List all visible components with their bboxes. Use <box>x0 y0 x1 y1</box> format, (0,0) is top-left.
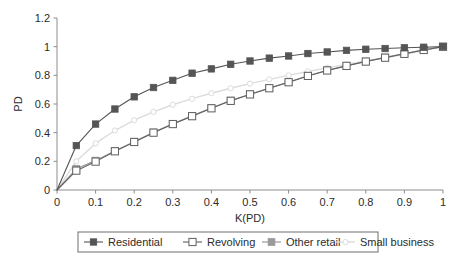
series-marker <box>112 128 117 133</box>
series-marker <box>304 72 311 79</box>
series-line <box>57 47 443 190</box>
series-marker <box>208 105 215 112</box>
series-marker <box>285 53 291 59</box>
legend-marker-swatch <box>268 239 275 246</box>
series-marker <box>150 84 156 90</box>
series-marker <box>228 86 233 91</box>
x-tick-label: 0.1 <box>88 196 103 208</box>
series-marker <box>73 142 79 148</box>
series-marker <box>189 70 195 76</box>
series-marker <box>189 113 196 120</box>
series-marker <box>132 118 137 123</box>
series-marker <box>401 45 407 51</box>
series-marker <box>324 67 331 74</box>
y-axis-ticks: 00.20.40.60.811.2 <box>35 12 57 196</box>
series-revolving <box>57 43 447 190</box>
x-tick-label: 0.9 <box>397 196 412 208</box>
series-marker <box>170 77 176 83</box>
series-line <box>57 47 443 190</box>
x-tick-label: 0.2 <box>127 196 142 208</box>
legend-item-label: Residential <box>108 236 162 248</box>
legend-marker-swatch <box>189 238 196 245</box>
series-marker <box>169 120 176 127</box>
axes-group <box>57 18 443 190</box>
series-marker <box>151 109 156 114</box>
series-marker <box>382 54 389 61</box>
series-marker <box>247 58 253 64</box>
series-line <box>57 47 443 190</box>
y-axis-title: PD <box>12 96 24 111</box>
y-tick-label: 0 <box>44 184 50 196</box>
series-other-retail <box>57 43 446 190</box>
series-marker <box>208 66 214 72</box>
x-tick-label: 0.7 <box>320 196 335 208</box>
chart-figure: 00.20.40.60.811.200.10.20.30.40.50.60.70… <box>0 0 456 265</box>
series-marker <box>440 43 446 49</box>
series-marker <box>362 58 369 65</box>
series-marker <box>286 73 291 78</box>
series-marker <box>246 91 253 98</box>
series-marker <box>382 45 388 51</box>
series-marker <box>363 46 369 52</box>
legend-marker-swatch <box>90 239 96 245</box>
y-tick-label: 0.4 <box>35 127 50 139</box>
legend-item-label: Other retail <box>286 236 340 248</box>
series-marker <box>92 121 98 127</box>
x-tick-label: 0.3 <box>165 196 180 208</box>
x-tick-label: 0 <box>54 196 60 208</box>
series-marker <box>285 79 292 86</box>
series-marker <box>131 138 138 145</box>
series-marker <box>73 167 80 174</box>
x-tick-label: 0.6 <box>281 196 296 208</box>
series-residential <box>57 43 446 190</box>
series-marker <box>266 85 273 92</box>
legend-item-label: Small business <box>360 236 434 248</box>
series-marker <box>324 49 330 55</box>
x-tick-label: 0.8 <box>358 196 373 208</box>
series-marker <box>209 91 214 96</box>
x-axis-ticks: 00.10.20.30.40.50.60.70.80.91 <box>54 190 446 208</box>
series-marker <box>247 81 252 86</box>
series-marker <box>421 44 427 50</box>
series-marker <box>74 159 79 164</box>
series-marker <box>266 55 272 61</box>
series-marker <box>131 94 137 100</box>
y-tick-label: 1 <box>44 41 50 53</box>
y-tick-label: 1.2 <box>35 12 50 24</box>
x-tick-label: 0.5 <box>242 196 257 208</box>
series-marker <box>343 62 350 69</box>
series-marker <box>267 77 272 82</box>
series-line <box>57 47 443 190</box>
series-marker <box>93 141 98 146</box>
series-marker <box>92 158 99 165</box>
chart-legend: ResidentialRevolvingOther retailSmall bu… <box>78 232 434 252</box>
y-tick-label: 0.2 <box>35 155 50 167</box>
series-marker <box>150 129 157 136</box>
series-marker <box>112 106 118 112</box>
series-marker <box>343 47 349 53</box>
series-marker <box>228 61 234 67</box>
legend-item-label: Revolving <box>207 236 255 248</box>
series-marker <box>190 96 195 101</box>
legend-marker-swatch <box>343 239 348 244</box>
x-tick-label: 1 <box>440 196 446 208</box>
series-small-business <box>57 44 446 190</box>
line-chart: 00.20.40.60.811.200.10.20.30.40.50.60.70… <box>0 0 456 265</box>
series-marker <box>227 97 234 104</box>
series-marker <box>305 50 311 56</box>
series-marker <box>111 148 118 155</box>
y-tick-label: 0.6 <box>35 98 50 110</box>
x-axis-title: K(PD) <box>235 212 265 224</box>
x-tick-label: 0.4 <box>204 196 219 208</box>
y-tick-label: 0.8 <box>35 69 50 81</box>
series-marker <box>170 102 175 107</box>
